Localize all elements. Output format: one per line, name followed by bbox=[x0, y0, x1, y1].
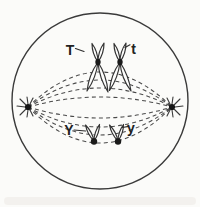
centriole-dot bbox=[25, 104, 31, 110]
spindle-fibers bbox=[28, 72, 172, 143]
chromatid-arm bbox=[120, 62, 131, 91]
aster-ray bbox=[172, 110, 173, 117]
spindle-fiber bbox=[28, 107, 172, 127]
label-tick-Y bbox=[74, 130, 86, 131]
aster-ray bbox=[20, 110, 26, 116]
aster-ray bbox=[20, 99, 26, 105]
label-allele-t: t bbox=[131, 41, 136, 57]
aster-ray bbox=[27, 110, 28, 117]
aster-ray bbox=[17, 106, 25, 107]
scan-artifact bbox=[4, 197, 196, 205]
spindle-fiber bbox=[28, 80, 172, 107]
label-allele-T: T bbox=[66, 42, 75, 58]
aster-ray bbox=[175, 106, 183, 107]
aster-ray bbox=[30, 98, 33, 104]
cell-membrane bbox=[12, 13, 188, 189]
aster-ray bbox=[172, 97, 173, 104]
centromere bbox=[95, 59, 100, 65]
spindle-fiber bbox=[28, 97, 172, 107]
right-centriole-aster bbox=[167, 97, 183, 117]
centromere bbox=[115, 138, 121, 144]
label-allele-Y: Y bbox=[64, 122, 74, 138]
spindle-fiber bbox=[28, 107, 172, 135]
aster-ray bbox=[27, 97, 28, 104]
chromosome-t bbox=[110, 43, 132, 91]
spindle-fiber bbox=[28, 107, 172, 118]
aster-ray bbox=[175, 99, 181, 105]
diagram-canvas: T t Y y bbox=[0, 0, 200, 207]
aster-ray bbox=[175, 110, 181, 116]
centromere bbox=[117, 59, 122, 65]
label-allele-y: y bbox=[127, 120, 135, 136]
centromere bbox=[91, 138, 97, 144]
aster-ray bbox=[30, 110, 33, 116]
centriole-dot bbox=[169, 104, 175, 110]
meiosis-metaphase-diagram: T t Y y bbox=[0, 0, 200, 207]
left-centriole-aster bbox=[17, 97, 33, 117]
chromatid-arm bbox=[110, 62, 121, 91]
label-tick-T bbox=[76, 49, 85, 52]
chromosome-T bbox=[87, 43, 108, 92]
chromatid-arm bbox=[87, 62, 98, 91]
